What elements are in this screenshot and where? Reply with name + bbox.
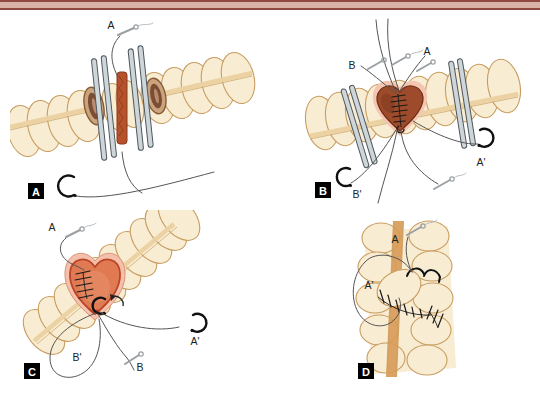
suture-thread [401,131,438,184]
suture-label-a-prime: A' [476,156,485,168]
suture-label-a: A [391,233,398,245]
panel-letter: B [319,185,327,197]
figure: A A [0,0,540,397]
suture-label-b-prime: B' [352,188,361,200]
straight-needle-icon [392,50,423,65]
suture-thread [76,172,214,197]
suture-label-a: A [107,19,114,31]
curved-needle-icon [58,176,77,198]
curved-needle-icon [191,314,207,332]
straight-needle-icon [118,23,153,35]
suture-label-b-prime: B' [72,351,81,363]
suture-thread [122,152,142,193]
header-bar [0,0,540,10]
panel-c-illustration: A B' B A' C [10,210,270,397]
panel-label-box: A [28,183,44,199]
suture-label-b: B [348,59,355,71]
suture-thread [112,36,120,77]
panel-letter: C [28,366,36,378]
panel-letter: D [362,366,370,378]
panel-label-box: C [24,363,40,379]
suture-label-a-prime: A' [190,335,199,347]
straight-needle-icon [417,60,435,71]
panel-letter: A [32,186,40,198]
straight-needle-icon [66,223,96,237]
panel-a-illustration: A A [10,14,270,210]
suture-thread [378,131,397,203]
panel-label-box: B [315,182,331,198]
curved-needle-icon [337,168,352,187]
panel-d-illustration: A A' D [280,210,540,397]
suture-label-a: A [48,221,55,233]
suture-label-b: B [136,361,143,373]
straight-needle-icon [434,173,466,189]
suture-thread [100,312,179,329]
suture-label-a: A [423,45,430,57]
curved-needle-icon [478,129,494,147]
panel-label-box: D [358,363,374,379]
panel-b-illustration: B A A' B' B [280,14,540,210]
suture-label-a-prime: A' [364,279,373,291]
